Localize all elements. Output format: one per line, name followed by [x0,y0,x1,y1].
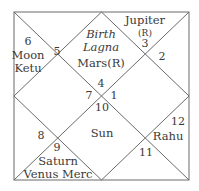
house-1-planet: Mars(R) [77,57,125,69]
house-8-planet-2: Venus Merc [24,168,93,180]
house-7-sign: 10 [95,102,109,114]
house-11-planet-2: Ketu [14,62,41,74]
house-1-title-line1: Birth [86,28,116,40]
house-5-planet: Rahu [153,130,184,142]
house-3-sign: 2 [159,51,166,63]
house-6-sign: 11 [139,147,153,159]
house-7-planet: Sun [91,127,114,139]
house-9-sign: 8 [38,130,45,142]
house-10-sign: 7 [86,90,93,102]
house-2-planet: Jupiter [125,14,165,26]
house-11-sign: 6 [25,36,32,48]
house-8-planet-1: Saturn [38,155,78,167]
house-5-sign: 12 [171,116,185,128]
house-2-sign: 3 [142,38,149,50]
house-4-sign: 1 [111,90,118,102]
house-12-sign: 5 [54,46,61,58]
house-1-sign: 4 [98,78,105,90]
house-8-sign: 9 [54,142,61,154]
house-1-title-line2: Lagna [83,41,119,53]
house-11-planet-1: Moon [11,49,44,61]
